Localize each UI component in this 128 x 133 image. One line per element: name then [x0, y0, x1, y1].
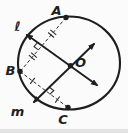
circle-outline — [18, 17, 120, 110]
right-angle-mark-BC — [49, 87, 53, 94]
line-label-m: m — [11, 104, 25, 119]
tick-mark-BC-2 — [55, 97, 60, 103]
point-dot-B — [17, 69, 22, 74]
point-label-A: A — [50, 3, 61, 18]
line-m — [34, 44, 95, 103]
geometry-figure: ℓmABCO — [0, 0, 128, 133]
point-dot-A — [63, 15, 68, 20]
tick-mark-AB-2 — [29, 55, 35, 60]
point-dot-O — [68, 63, 73, 68]
point-label-O: O — [75, 55, 86, 70]
bottom-edge-strip — [0, 129, 128, 133]
point-dot-C — [65, 105, 70, 110]
point-label-B: B — [6, 63, 16, 78]
circle-chords-diagram: ℓmABCO — [0, 0, 128, 133]
line-label-l: ℓ — [13, 19, 20, 34]
line-l — [27, 35, 98, 86]
tick-mark-BC-1 — [30, 78, 35, 84]
point-label-C: C — [58, 112, 68, 127]
chord-AB — [20, 18, 66, 72]
